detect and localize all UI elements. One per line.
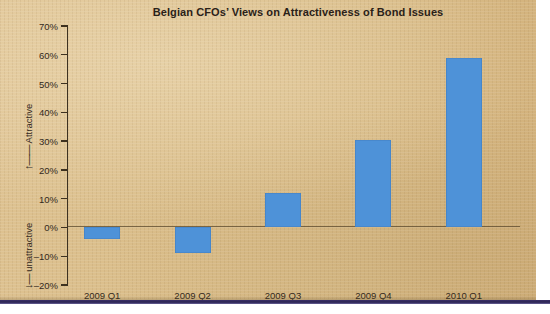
y-axis-caption-attractive: ↑—— Attractive [22, 104, 34, 170]
y-axis-tick-label: 50% [18, 78, 58, 89]
plot-area [68, 26, 520, 285]
bar-2009-q1 [84, 227, 120, 239]
page-bottom-rule [0, 300, 550, 304]
bar-2009-q2 [175, 227, 211, 253]
y-axis-tick [61, 25, 68, 26]
y-axis-tick [61, 83, 68, 84]
chart-page: Belgian CFOs’ Views on Attractiveness of… [0, 0, 550, 314]
y-axis-caption-unattractive-label: unattractive [23, 223, 34, 272]
down-arrow-icon: ↓— [22, 275, 34, 290]
y-axis-tick [61, 256, 68, 257]
y-axis-tick [61, 198, 68, 199]
bar-2009-q4 [355, 140, 391, 228]
y-axis-tick-label: 70% [18, 21, 58, 32]
y-axis-caption-attractive-label: Attractive [23, 104, 34, 144]
y-axis-tick [61, 112, 68, 113]
chart-title: Belgian CFOs’ Views on Attractiveness of… [78, 6, 518, 18]
y-axis-tick [61, 169, 68, 170]
y-axis-tick [61, 227, 68, 228]
y-axis-tick-label: 60% [18, 49, 58, 60]
y-axis-tick-label: 10% [18, 193, 58, 204]
up-arrow-icon: ↑—— [22, 146, 34, 171]
bar-2010-q1 [446, 58, 482, 228]
y-axis-tick [61, 54, 68, 55]
y-axis-tick [61, 284, 68, 285]
y-axis-tick-labels: 70%60%50%40%30%20%10%0%–10%–20% [14, 0, 58, 314]
bar-2009-q3 [265, 193, 301, 228]
y-axis-caption-unattractive: ↓— unattractive [22, 223, 34, 289]
y-axis-tick [61, 140, 68, 141]
